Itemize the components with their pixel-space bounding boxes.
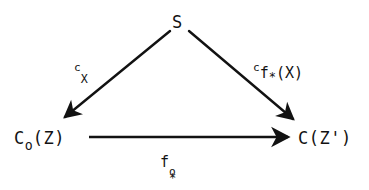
node-c-o-z-argument: (Z) xyxy=(33,128,65,148)
commutative-diagram: S Co(Z) C(Z') cX cf*(X) fo* xyxy=(0,0,369,190)
node-s: S xyxy=(172,14,183,31)
arrow-label-c-fstar-x-star: * xyxy=(269,70,276,84)
arrow-label-c-x-subscript: X xyxy=(81,72,88,86)
node-c-z-prime-base: C(Z') xyxy=(298,128,352,148)
arrow-label-f-o-star-star: * xyxy=(169,172,176,184)
arrow-label-c-fstar-x-argument: (X) xyxy=(276,64,303,82)
node-c-o-z-base: C xyxy=(14,128,25,148)
node-s-base: S xyxy=(172,12,183,32)
arrow-label-f-o-star: fo* xyxy=(160,155,169,170)
arrow-label-c-fstar-x-prefix: c xyxy=(253,61,260,74)
arrow-layer xyxy=(0,0,369,190)
arrow-label-f-o-star-base: f xyxy=(160,153,169,171)
arrow-label-c-fstar-x-base: f xyxy=(260,64,269,82)
node-c-o-z-subscript: o xyxy=(25,138,33,153)
node-c-o-z: Co(Z) xyxy=(14,130,65,152)
arrow-label-c-x-prefix: c xyxy=(74,61,81,74)
node-c-z-prime: C(Z') xyxy=(298,130,352,147)
arrow-label-c-fstar-x: cf*(X) xyxy=(253,62,303,83)
arrow-label-c-x: cX xyxy=(74,62,88,85)
